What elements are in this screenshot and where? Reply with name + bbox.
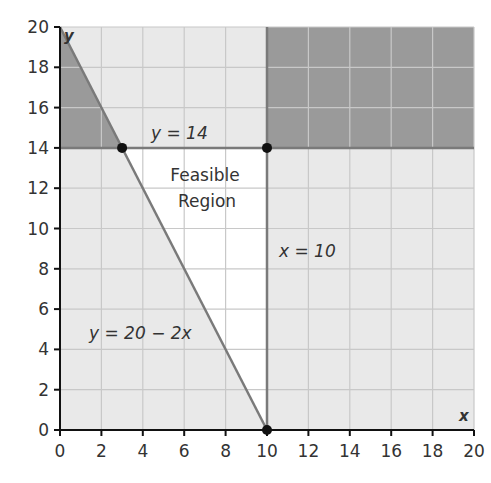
y-tick-label: 16: [27, 98, 49, 118]
x-tick-label: 20: [463, 441, 485, 461]
x-tick-label: 12: [298, 441, 320, 461]
y-tick-label: 8: [38, 259, 49, 279]
x-axis-label: x: [458, 407, 470, 425]
x-tick-label: 8: [220, 441, 231, 461]
y-tick-label: 12: [27, 178, 49, 198]
y-tick-label: 2: [38, 380, 49, 400]
intersection-point: [117, 143, 127, 153]
x-tick-label: 18: [422, 441, 444, 461]
intersection-point: [262, 425, 272, 435]
y-tick-label: 0: [38, 420, 49, 440]
y-equals-14-label: y = 14: [150, 123, 208, 143]
y-tick-label: 14: [27, 138, 49, 158]
x-tick-label: 14: [339, 441, 361, 461]
constraint-line-label: y = 20 − 2x: [88, 323, 193, 343]
x-tick-label: 2: [96, 441, 107, 461]
x-tick-label: 4: [137, 441, 148, 461]
dark-region-top-right: [267, 27, 474, 148]
linear-programming-chart: 0246810121416182002468101214161820 y = 1…: [0, 0, 491, 483]
x-tick-label: 16: [380, 441, 402, 461]
y-tick-label: 18: [27, 57, 49, 77]
feasible-region-label-line1: Feasible: [170, 165, 239, 185]
intersection-point: [262, 143, 272, 153]
y-axis-label: y: [64, 27, 75, 45]
feasible-region-label-line2: Region: [178, 191, 236, 211]
x-equals-10-label: x = 10: [278, 241, 336, 261]
y-tick-label: 10: [27, 219, 49, 239]
x-tick-label: 10: [256, 441, 278, 461]
x-tick-label: 0: [55, 441, 66, 461]
y-tick-label: 4: [38, 339, 49, 359]
y-tick-label: 20: [27, 17, 49, 37]
y-tick-label: 6: [38, 299, 49, 319]
x-tick-label: 6: [179, 441, 190, 461]
